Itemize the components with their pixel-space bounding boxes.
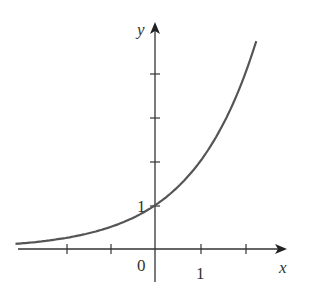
exponential-graph: y x 0 1 1 [0, 0, 313, 302]
x-tick-label-1: 1 [196, 264, 205, 283]
y-axis-label: y [135, 20, 145, 39]
y-tick-label-1: 1 [137, 197, 146, 216]
exponential-curve [16, 41, 257, 244]
origin-label: 0 [137, 256, 146, 275]
x-axis-label: x [278, 258, 287, 277]
